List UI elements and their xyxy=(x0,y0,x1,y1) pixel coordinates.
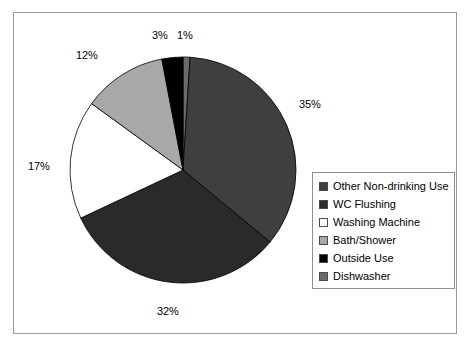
pie-value-label: 1% xyxy=(177,29,193,41)
legend-swatch-icon xyxy=(319,254,328,263)
legend-item-label: Dishwasher xyxy=(333,271,390,282)
legend-swatch-icon xyxy=(319,182,328,191)
pie-value-label: 3% xyxy=(152,29,168,41)
legend-item[interactable]: Washing Machine xyxy=(319,213,454,231)
legend-item[interactable]: Bath/Shower xyxy=(319,231,454,249)
legend-item-label: Washing Machine xyxy=(333,217,420,228)
legend-item-label: Outside Use xyxy=(333,253,394,264)
legend-swatch-icon xyxy=(319,272,328,281)
legend-swatch-icon xyxy=(319,218,328,227)
legend-item-label: Bath/Shower xyxy=(333,235,396,246)
legend-item-label: Other Non-drinking Use xyxy=(333,181,449,192)
legend-item[interactable]: Outside Use xyxy=(319,249,454,267)
legend-item[interactable]: WC Flushing xyxy=(319,195,454,213)
pie-value-label: 32% xyxy=(157,305,179,317)
pie-value-label: 12% xyxy=(76,49,98,61)
pie-slice-group xyxy=(70,57,296,283)
pie-value-label: 35% xyxy=(299,98,321,110)
legend-item[interactable]: Other Non-drinking Use xyxy=(319,177,454,195)
legend-swatch-icon xyxy=(319,236,328,245)
legend-swatch-icon xyxy=(319,200,328,209)
pie-value-label: 17% xyxy=(28,160,50,172)
legend-item-label: WC Flushing xyxy=(333,199,396,210)
chart-legend: Other Non-drinking UseWC FlushingWashing… xyxy=(312,172,455,289)
legend-item[interactable]: Dishwasher xyxy=(319,267,454,285)
